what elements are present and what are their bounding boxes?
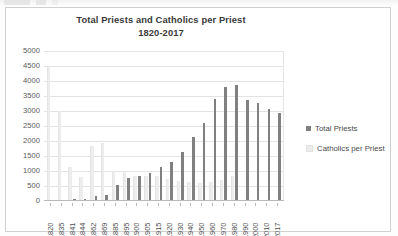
x-axis-tick-label: 1895 — [122, 203, 131, 236]
bar-category — [110, 51, 121, 201]
bar-category — [88, 51, 99, 201]
bar-total-priests[interactable] — [224, 87, 227, 201]
x-axis-tick-label: 1905 — [143, 203, 152, 236]
x-axis-tick-label: 1841 — [68, 203, 77, 236]
x-axis-tick-label: 2010 — [262, 203, 271, 236]
x-axis-tick-label: 2000 — [251, 203, 260, 236]
x-axis-tick: 1930 — [175, 203, 186, 236]
x-axis-tick: 1841 — [67, 203, 78, 236]
x-axis-tick: 1844 — [77, 203, 88, 236]
bar-catholics-per-priest[interactable] — [209, 182, 213, 201]
bar-catholics-per-priest[interactable] — [133, 176, 137, 202]
x-axis-tick-label: 1885 — [111, 203, 120, 236]
bar-total-priests[interactable] — [203, 123, 206, 201]
y-axis-tick-label: 2000 — [23, 137, 40, 145]
x-axis-tick-label: 1869 — [100, 203, 109, 236]
x-axis-tick-label: 1820 — [46, 203, 55, 236]
y-axis-tick-label: 0 — [36, 197, 40, 205]
x-axis-tick-label: 1930 — [176, 203, 185, 236]
bar-total-priests[interactable] — [214, 99, 217, 201]
chart-title: Total Priests and Catholics per Priest 1… — [36, 14, 286, 39]
bar-category — [207, 51, 218, 201]
bar-catholics-per-priest[interactable] — [58, 111, 62, 201]
x-axis-tick-label: 1920 — [165, 203, 174, 236]
chart-title-line2: 1820-2017 — [36, 27, 286, 40]
x-axis-tick-label: 1960 — [208, 203, 217, 236]
bar-catholics-per-priest[interactable] — [166, 179, 170, 201]
bar-category — [229, 51, 240, 201]
y-axis-tick-label: 3500 — [23, 92, 40, 100]
legend-item-total-priests[interactable]: Total Priests — [306, 124, 385, 133]
bar-catholics-per-priest[interactable] — [123, 171, 127, 201]
x-axis-tick: 1835 — [56, 203, 67, 236]
y-axis-tick-label: 1500 — [23, 152, 40, 160]
bar-category — [186, 51, 197, 201]
x-axis-tick-label: 1950 — [197, 203, 206, 236]
bar-total-priests[interactable] — [149, 173, 152, 201]
bar-catholics-per-priest[interactable] — [177, 181, 181, 201]
bar-category — [240, 51, 251, 201]
bar-total-priests[interactable] — [235, 85, 238, 201]
bar-category — [132, 51, 143, 201]
legend-swatch-icon — [306, 145, 313, 152]
bar-total-priests[interactable] — [160, 167, 163, 201]
bar-catholics-per-priest[interactable] — [68, 167, 72, 202]
bar-category — [67, 51, 78, 201]
screenshot-root: Total Priests and Catholics per Priest 1… — [0, 0, 398, 236]
x-axis-tick-label: 1980 — [230, 203, 239, 236]
bar-catholics-per-priest[interactable] — [79, 177, 83, 201]
bar-category — [77, 51, 88, 201]
bar-catholics-per-priest[interactable] — [101, 143, 105, 202]
bar-catholics-per-priest[interactable] — [47, 66, 51, 201]
bar-category — [45, 51, 56, 201]
y-axis-tick-label: 4000 — [23, 77, 40, 85]
x-axis-tick: 2010 — [261, 203, 272, 236]
x-axis-tick-label: 1970 — [219, 203, 228, 236]
bar-total-priests[interactable] — [268, 109, 271, 201]
bar-category — [56, 51, 67, 201]
legend-label: Total Priests — [315, 124, 357, 133]
bar-category — [153, 51, 164, 201]
legend-label: Catholics per Priest — [317, 144, 385, 153]
y-axis-tick-label: 500 — [27, 182, 40, 190]
y-axis-tick-label: 4500 — [23, 62, 40, 70]
x-axis-tick: 1920 — [164, 203, 175, 236]
bar-total-priests[interactable] — [246, 100, 249, 201]
bar-total-priests[interactable] — [257, 103, 260, 201]
legend-swatch-icon — [306, 126, 311, 131]
legend-item-catholics-per-priest[interactable]: Catholics per Priest — [306, 144, 385, 153]
chart-title-line1: Total Priests and Catholics per Priest — [36, 14, 286, 27]
bar-category — [142, 51, 153, 201]
bar-category — [261, 51, 272, 201]
bar-catholics-per-priest[interactable] — [198, 183, 202, 201]
bar-catholics-per-priest[interactable] — [144, 176, 148, 201]
x-axis-tick-label: 1900 — [132, 203, 141, 236]
x-axis-tick: 1862 — [88, 203, 99, 236]
bar-category — [164, 51, 175, 201]
bar-total-priests[interactable] — [278, 113, 281, 201]
bar-category — [99, 51, 110, 201]
chart-container: Total Priests and Catholics per Priest 1… — [5, 7, 391, 232]
bar-category — [250, 51, 261, 201]
bar-catholics-per-priest[interactable] — [90, 146, 94, 202]
bar-category — [218, 51, 229, 201]
x-axis-tick: 1900 — [132, 203, 143, 236]
bar-total-priests[interactable] — [181, 152, 184, 201]
x-axis-tick: 2017 — [272, 203, 283, 236]
bar-catholics-per-priest[interactable] — [155, 176, 159, 201]
bar-category — [196, 51, 207, 201]
bar-total-priests[interactable] — [127, 178, 130, 201]
x-axis-tick-label: 1940 — [186, 203, 195, 236]
bar-total-priests[interactable] — [116, 185, 119, 201]
bar-catholics-per-priest[interactable] — [112, 171, 116, 201]
x-axis-tick: 2000 — [250, 203, 261, 236]
bar-catholics-per-priest[interactable] — [187, 182, 191, 201]
x-axis-tick-label: 1862 — [89, 203, 98, 236]
bar-catholics-per-priest[interactable] — [231, 176, 235, 202]
bar-total-priests[interactable] — [138, 176, 141, 201]
x-axis-line — [44, 200, 284, 201]
bar-total-priests[interactable] — [170, 162, 173, 201]
bar-total-priests[interactable] — [192, 137, 195, 201]
bar-catholics-per-priest[interactable] — [220, 180, 224, 201]
y-axis-tick-label: 3000 — [23, 107, 40, 115]
